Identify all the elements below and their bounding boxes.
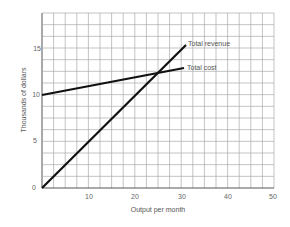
y-tick-15: 15 xyxy=(33,45,41,52)
x-tick-labels: 10 20 30 40 50 xyxy=(85,193,277,200)
y-tick-0: 0 xyxy=(32,184,36,191)
total-cost-label: Total cost xyxy=(187,64,217,71)
break-even-chart: 0 5 10 15 10 20 30 40 50 Output per mont… xyxy=(0,0,290,227)
x-tick-50: 50 xyxy=(269,193,277,200)
x-tick-40: 40 xyxy=(224,193,232,200)
total-revenue-label: Total revenue xyxy=(188,40,230,47)
y-tick-5: 5 xyxy=(33,137,37,144)
total-revenue-line xyxy=(42,45,186,188)
x-tick-10: 10 xyxy=(85,193,93,200)
x-tick-30: 30 xyxy=(178,193,186,200)
y-tick-labels: 0 5 10 15 xyxy=(32,45,41,191)
total-cost-line xyxy=(42,68,184,95)
chart-grid xyxy=(42,13,274,188)
x-axis-label: Output per month xyxy=(131,206,186,214)
y-axis-label: Thousands of dollars xyxy=(20,67,27,132)
y-tick-10: 10 xyxy=(32,91,40,98)
x-tick-20: 20 xyxy=(131,193,139,200)
